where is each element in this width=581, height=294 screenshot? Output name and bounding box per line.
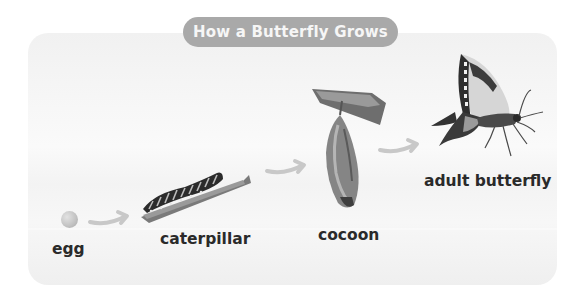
egg-image — [61, 211, 78, 228]
cocoon-label: cocoon — [318, 226, 379, 244]
arrow-icon — [378, 136, 422, 158]
diagram-title-text: How a Butterfly Grows — [193, 23, 388, 41]
adult-butterfly-label: adult butterfly — [424, 172, 551, 190]
arrow-icon — [88, 208, 132, 230]
caterpillar-image — [135, 165, 255, 225]
butterfly-image — [425, 52, 545, 162]
caterpillar-label: caterpillar — [160, 230, 250, 248]
arrow-icon — [265, 157, 309, 179]
diagram-title: How a Butterfly Grows — [183, 17, 398, 47]
egg-label: egg — [52, 240, 85, 258]
